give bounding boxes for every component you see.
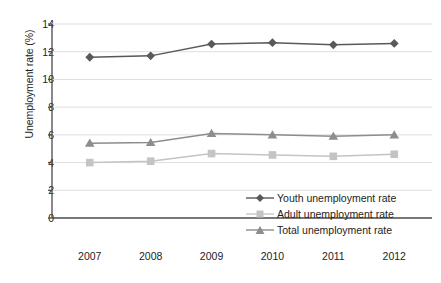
data-point-square <box>147 157 155 165</box>
data-point-square <box>269 151 277 159</box>
x-tick-label: 2011 <box>303 250 363 262</box>
x-tick-label: 2009 <box>182 250 242 262</box>
data-point-square <box>86 159 94 167</box>
series-line-square <box>90 154 394 163</box>
legend-marker-triangle-icon <box>245 223 275 237</box>
legend-label-total: Total unemployment rate <box>275 224 392 236</box>
data-point-square <box>208 150 216 158</box>
legend-label-adult: Adult unemployment rate <box>275 208 394 220</box>
x-tick-label: 2010 <box>242 250 302 262</box>
data-point-diamond <box>85 53 94 62</box>
data-point-diamond <box>146 51 155 60</box>
x-axis-tick-labels: 200720082009201020112012 <box>0 250 441 270</box>
legend-item-total[interactable]: Total unemployment rate <box>245 222 396 237</box>
data-point-diamond <box>207 40 216 49</box>
data-point-square <box>390 150 398 158</box>
data-point-diamond <box>329 40 338 49</box>
legend-label-youth: Youth unemployment rate <box>275 192 396 204</box>
legend-item-adult[interactable]: Adult unemployment rate <box>245 206 396 221</box>
data-point-diamond <box>268 38 277 47</box>
unemployment-rate-line-chart: Unemployment rate (%) 02468101214 200720… <box>0 0 441 283</box>
legend-item-youth[interactable]: Youth unemployment rate <box>245 190 396 205</box>
x-tick-label: 2012 <box>364 250 424 262</box>
data-point-diamond <box>390 39 399 48</box>
x-tick-label: 2008 <box>121 250 181 262</box>
data-point-square <box>330 153 338 161</box>
x-tick-label: 2007 <box>60 250 120 262</box>
legend-marker-square-icon <box>245 207 275 221</box>
legend-marker-diamond-icon <box>245 191 275 205</box>
chart-legend: Youth unemployment rate Adult unemployme… <box>245 190 396 237</box>
series-line-diamond <box>90 43 394 58</box>
plot-area <box>0 0 441 283</box>
